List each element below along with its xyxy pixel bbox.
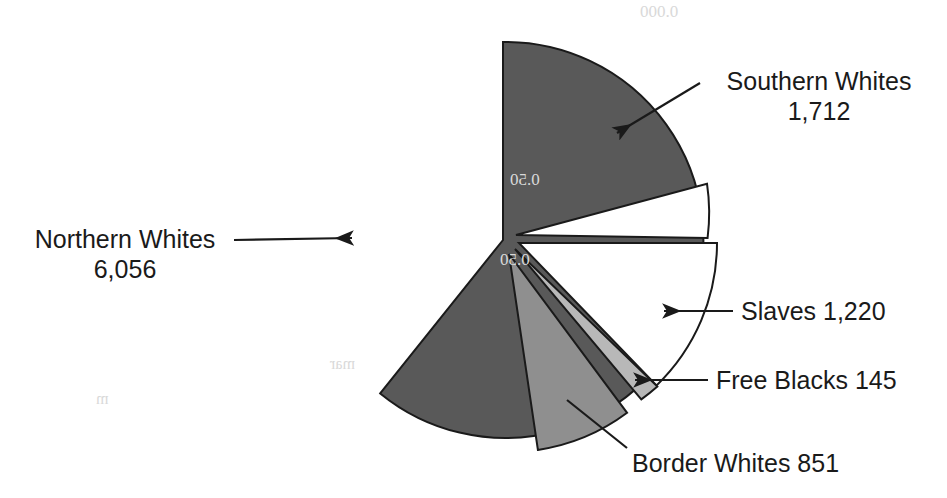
pie-label-free-blacks: Free Blacks 145	[716, 365, 897, 395]
pie-label-southern-whites-name: Southern Whites	[705, 66, 933, 96]
leader-line-northern-whites	[234, 238, 352, 240]
pie-label-northern-whites: Northern Whites 6,056	[16, 224, 234, 284]
pie-label-border-whites: Border Whites 851	[632, 448, 839, 478]
pie-label-southern-whites-value: 1,712	[705, 96, 933, 126]
pie-label-northern-whites-name: Northern Whites	[16, 224, 234, 254]
pie-label-slaves: Slaves 1,220	[741, 296, 886, 326]
pie-label-northern-whites-value: 6,056	[16, 254, 234, 284]
pie-label-southern-whites: Southern Whites 1,712	[705, 66, 933, 126]
pie-chart-figure: 0.000 0.50 0.50 mar m	[0, 0, 947, 498]
